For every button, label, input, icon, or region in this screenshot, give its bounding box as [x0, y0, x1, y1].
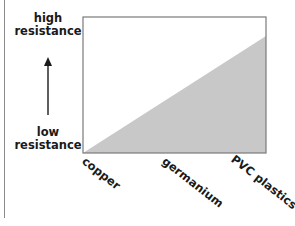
arrow-up-icon [44, 57, 52, 66]
resistance-area-fill [83, 36, 266, 153]
y-label-low-line2: resistance [8, 139, 88, 152]
chart-area [0, 0, 295, 226]
y-label-low: low resistance [8, 126, 88, 152]
